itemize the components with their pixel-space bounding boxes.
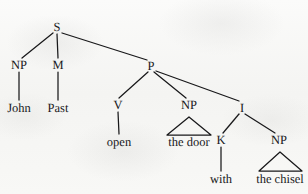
leaf-open: open	[107, 136, 131, 149]
branch-s-to-m	[57, 34, 58, 58]
leaf-john: John	[7, 102, 31, 115]
node-np-oblique: NP	[271, 134, 287, 147]
syntax-tree-figure: S NP M P V NP I K NP John Past open the …	[0, 0, 308, 194]
leaf-the-door: the door	[168, 136, 209, 149]
leaf-the-chisel: the chisel	[256, 173, 304, 186]
branch-i-to-np-oblique	[245, 114, 275, 133]
branch-i-to-k	[223, 114, 239, 133]
node-k: K	[216, 134, 225, 147]
node-m: M	[52, 59, 63, 72]
branch-p-to-i	[156, 71, 239, 101]
branch-v-to-open	[118, 112, 119, 134]
branch-p-to-v	[119, 72, 148, 98]
node-np-subject: NP	[11, 59, 27, 72]
leaf-with: with	[210, 173, 232, 186]
branch-s-to-np-subject	[22, 33, 53, 58]
node-s: S	[54, 21, 61, 34]
leaf-past: Past	[48, 102, 69, 115]
tree-edge-layer	[0, 0, 308, 194]
np-oblique-triangle	[259, 152, 302, 171]
node-p: P	[148, 60, 155, 73]
node-v: V	[113, 99, 122, 112]
branch-s-to-p	[62, 33, 147, 60]
node-np-object: NP	[181, 99, 197, 112]
np-object-triangle	[167, 117, 211, 135]
node-i: I	[240, 102, 244, 115]
